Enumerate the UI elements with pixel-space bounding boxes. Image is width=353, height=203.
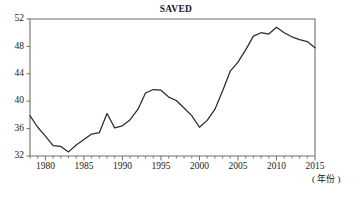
y-tick-label: 44 bbox=[15, 68, 25, 78]
y-tick-label: 48 bbox=[15, 41, 25, 51]
chart-title-group: SAVED bbox=[160, 4, 192, 14]
y-tick-label: 40 bbox=[15, 95, 25, 105]
x-tick-label: 2010 bbox=[267, 161, 286, 171]
x-axis-caption: ( 年份 ) bbox=[312, 173, 341, 184]
x-tick-label: 2015 bbox=[306, 161, 325, 171]
y-tick-label: 32 bbox=[15, 150, 25, 160]
x-tick-label: 1995 bbox=[151, 161, 170, 171]
y-tick-label: 52 bbox=[15, 13, 25, 23]
chart-container: SAVED 323640444852 198019851990199520002… bbox=[0, 0, 353, 203]
plot-frame bbox=[30, 19, 315, 156]
x-tick-label: 1985 bbox=[74, 161, 93, 171]
x-tick-label: 2005 bbox=[228, 161, 247, 171]
chart-title: SAVED bbox=[160, 4, 192, 14]
saved-line-chart: SAVED 323640444852 198019851990199520002… bbox=[0, 0, 353, 203]
series-line-0 bbox=[30, 27, 315, 152]
x-tick-label: 1980 bbox=[36, 161, 55, 171]
y-axis: 323640444852 bbox=[15, 13, 31, 160]
y-tick-label: 36 bbox=[15, 123, 25, 133]
axis-frame-path bbox=[30, 19, 315, 156]
x-tick-label: 1990 bbox=[113, 161, 132, 171]
x-tick-label: 2000 bbox=[190, 161, 209, 171]
series-layer bbox=[30, 27, 315, 152]
x-axis: 19801985199019952000200520102015 bbox=[30, 156, 325, 171]
